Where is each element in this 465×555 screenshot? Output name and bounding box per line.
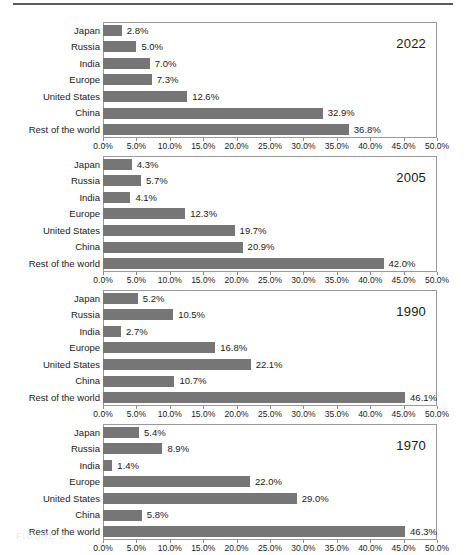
axis-tick-label: 45.0%: [392, 410, 416, 419]
category-label: Europe: [0, 75, 103, 85]
bar-track: 12.3%: [103, 206, 437, 223]
bar[interactable]: [103, 91, 187, 102]
axis-tick-label: 40.0%: [358, 276, 382, 285]
bar[interactable]: [103, 242, 243, 253]
bar[interactable]: [103, 58, 150, 69]
axis-tick-label: 25.0%: [258, 276, 282, 285]
category-label: Japan: [0, 428, 103, 438]
bar[interactable]: [103, 392, 405, 403]
axis-tick-label: 5.0%: [127, 410, 146, 419]
bar-track: 12.6%: [103, 88, 437, 105]
bar[interactable]: [103, 159, 132, 170]
bar-row: Japan4.3%: [0, 156, 465, 173]
axis-tick-label: 20.0%: [225, 276, 249, 285]
bar-row: United States29.0%: [0, 490, 465, 507]
bar[interactable]: [103, 124, 349, 135]
bar[interactable]: [103, 192, 130, 203]
bar-row: Rest of the world46.1%: [0, 389, 465, 406]
bar-row-group: Japan5.4%Russia8.9%India1.4%Europe22.0%U…: [0, 424, 465, 540]
category-label: Russia: [0, 444, 103, 454]
bar[interactable]: [103, 326, 121, 337]
top-divider-rule: [13, 3, 453, 5]
category-label: Rest of the world: [0, 259, 103, 269]
bar-track: 22.0%: [103, 474, 437, 491]
bar[interactable]: [103, 41, 136, 52]
axis-tick-label: 15.0%: [191, 410, 215, 419]
category-label: Japan: [0, 294, 103, 304]
axis-tick-label: 35.0%: [325, 410, 349, 419]
axis-tick-label: 45.0%: [392, 142, 416, 151]
category-label: Japan: [0, 26, 103, 36]
axis-tick-label: 50.0%: [425, 276, 449, 285]
bar-row: Europe22.0%: [0, 474, 465, 491]
bar-row: Japan5.2%: [0, 290, 465, 307]
bar-value-label: 4.3%: [137, 160, 159, 170]
bar[interactable]: [103, 309, 173, 320]
bar[interactable]: [103, 25, 122, 36]
axis-tick-label: 25.0%: [258, 544, 282, 553]
bar-value-label: 5.4%: [144, 428, 166, 438]
bar-track: 5.4%: [103, 424, 437, 441]
axis-tick-label: 0.0%: [93, 276, 112, 285]
bar[interactable]: [103, 376, 174, 387]
bar[interactable]: [103, 225, 235, 236]
bar[interactable]: [103, 460, 112, 471]
bar-track: 5.7%: [103, 173, 437, 190]
category-label: Rest of the world: [0, 393, 103, 403]
category-label: Europe: [0, 209, 103, 219]
bar[interactable]: [103, 427, 139, 438]
bar-row: China32.9%: [0, 105, 465, 122]
axis-tick-label: 15.0%: [191, 276, 215, 285]
bar-value-label: 4.1%: [135, 193, 157, 203]
bar[interactable]: [103, 526, 405, 537]
bar-value-label: 2.7%: [126, 327, 148, 337]
category-label: United States: [0, 494, 103, 504]
bar-track: 4.1%: [103, 189, 437, 206]
category-label: India: [0, 461, 103, 471]
axis-tick-label: 30.0%: [291, 276, 315, 285]
bar-value-label: 36.8%: [354, 125, 381, 135]
axis-tick-label: 50.0%: [425, 410, 449, 419]
category-label: China: [0, 242, 103, 252]
axis-tick-label: 35.0%: [325, 142, 349, 151]
bar-value-label: 46.1%: [410, 393, 437, 403]
bar-track: 5.0%: [103, 39, 437, 56]
bar-row: India4.1%: [0, 189, 465, 206]
bar[interactable]: [103, 443, 162, 454]
bar[interactable]: [103, 74, 152, 85]
axis-tick-label: 25.0%: [258, 410, 282, 419]
bar-value-label: 20.9%: [248, 242, 275, 252]
chart-panel-1990: 1990Japan5.2%Russia10.5%India2.7%Europe1…: [0, 290, 465, 424]
bar-value-label: 22.1%: [256, 360, 283, 370]
bar-value-label: 42.0%: [389, 259, 416, 269]
bar[interactable]: [103, 108, 323, 119]
axis-tick-label: 30.0%: [291, 544, 315, 553]
bar-value-label: 1.4%: [117, 461, 139, 471]
bar[interactable]: [103, 293, 138, 304]
axis-tick-label: 50.0%: [425, 544, 449, 553]
bar[interactable]: [103, 258, 384, 269]
bar[interactable]: [103, 476, 250, 487]
bar[interactable]: [103, 510, 142, 521]
bar-row-group: Japan2.8%Russia5.0%India7.0%Europe7.3%Un…: [0, 22, 465, 138]
bar-row: Europe7.3%: [0, 72, 465, 89]
bar[interactable]: [103, 359, 251, 370]
panel-stack: 2022Japan2.8%Russia5.0%India7.0%Europe7.…: [0, 22, 465, 555]
bar-track: 1.4%: [103, 457, 437, 474]
category-label: China: [0, 510, 103, 520]
axis-tick-label: 30.0%: [291, 410, 315, 419]
bar[interactable]: [103, 493, 297, 504]
bar[interactable]: [103, 208, 185, 219]
bar-track: 29.0%: [103, 490, 437, 507]
bar-track: 46.1%: [103, 389, 437, 406]
bar-track: 20.9%: [103, 239, 437, 256]
axis-tick-label: 35.0%: [325, 544, 349, 553]
bar[interactable]: [103, 175, 141, 186]
bar-track: 32.9%: [103, 105, 437, 122]
category-label: Europe: [0, 343, 103, 353]
bar-value-label: 12.3%: [190, 209, 217, 219]
bar[interactable]: [103, 342, 215, 353]
bar-row: China5.8%: [0, 507, 465, 524]
bar-value-label: 10.7%: [179, 376, 206, 386]
bar-value-label: 2.8%: [127, 26, 149, 36]
